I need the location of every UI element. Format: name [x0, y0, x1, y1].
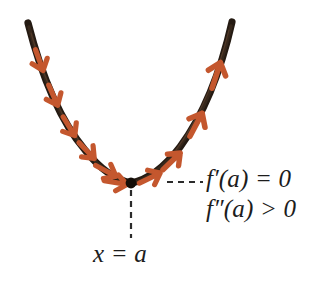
second-derivative-label: f″(a) > 0 — [206, 196, 296, 221]
x-value-label: x = a — [93, 241, 147, 266]
direction-arrow-icon — [73, 137, 100, 164]
first-derivative-label: f′(a) = 0 — [206, 166, 291, 191]
vertex-dot-icon — [126, 178, 137, 189]
direction-arrow-icon — [157, 147, 185, 175]
local-minimum-diagram: f′(a) = 0 f″(a) > 0 x = a — [0, 0, 334, 282]
curve-canvas — [0, 0, 334, 282]
direction-arrow-group — [28, 47, 229, 192]
